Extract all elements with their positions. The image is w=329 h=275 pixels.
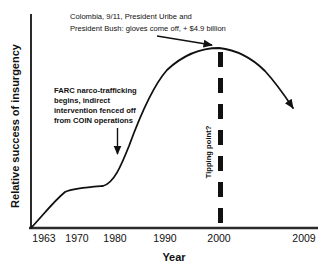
x-tick-1990: 1990 <box>153 232 177 244</box>
tipping-point-label: Tipping point? <box>204 125 213 178</box>
x-tick-1963: 1963 <box>32 232 56 244</box>
x-tick-2009: 2009 <box>292 232 316 244</box>
plan-colombia-annotation-line2: President Bush: gloves come off, + $4.9 … <box>70 24 226 33</box>
x-tick-1970: 1970 <box>65 232 89 244</box>
insurgency-curve <box>31 48 293 228</box>
plan-colombia-annotation-arrow <box>157 36 212 45</box>
insurgency-success-chart: Colombia, 9/11, President Uribe and Pres… <box>0 0 329 275</box>
plan-colombia-annotation-line1: Colombia, 9/11, President Uribe and <box>70 12 192 21</box>
chart-canvas: Colombia, 9/11, President Uribe and Pres… <box>0 0 329 275</box>
x-tick-2000: 2000 <box>207 232 231 244</box>
farc-annotation-line3: intervention fenced off <box>54 106 136 115</box>
farc-annotation-line4: from COIN operations <box>54 116 133 125</box>
x-axis-title: Year <box>162 251 186 263</box>
y-axis-title: Relative success of insurgency <box>9 43 21 208</box>
farc-annotation-line2: begins, indirect <box>54 96 111 105</box>
farc-annotation-line1: FARC narco-trafficking <box>54 86 137 95</box>
x-tick-1980: 1980 <box>103 232 127 244</box>
